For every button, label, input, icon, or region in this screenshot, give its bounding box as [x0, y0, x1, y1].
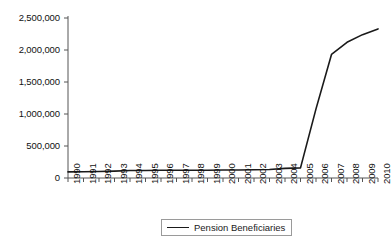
y-tick-label: 1,000,000 [0, 109, 60, 119]
y-tick-label: 2,500,000 [0, 13, 60, 23]
x-tick-label: 1990 [72, 163, 82, 184]
legend-line-swatch [167, 227, 189, 228]
x-tick-label: 2008 [351, 163, 361, 184]
x-tick-label: 1993 [119, 163, 129, 184]
axis-group [68, 16, 378, 178]
x-tick-label: 2001 [243, 163, 253, 184]
x-tick-label: 1997 [181, 163, 191, 184]
x-tick-label: 2006 [320, 163, 330, 184]
x-tick-label: 2002 [258, 163, 268, 184]
x-tick-label: 2009 [367, 163, 377, 184]
y-tick-label: 1,500,000 [0, 77, 60, 87]
x-tick-label: 1991 [88, 163, 98, 184]
x-tick-label: 2005 [305, 163, 315, 184]
x-tick-label: 1994 [134, 163, 144, 184]
x-tick-marks [68, 178, 378, 182]
chart-legend: Pension Beneficiaries [161, 219, 292, 236]
x-tick-label: 1999 [212, 163, 222, 184]
y-tick-marks [64, 18, 68, 178]
data-series-group [68, 29, 378, 172]
x-tick-label: 1998 [196, 163, 206, 184]
x-tick-label: 2007 [336, 163, 346, 184]
legend-label: Pension Beneficiaries [194, 222, 285, 233]
x-tick-label: 1996 [165, 163, 175, 184]
x-tick-label: 2010 [382, 163, 392, 184]
series-line [68, 29, 378, 172]
x-tick-label: 2000 [227, 163, 237, 184]
x-tick-label: 1992 [103, 163, 113, 184]
y-tick-label: 0 [0, 173, 60, 183]
y-tick-label: 2,000,000 [0, 45, 60, 55]
x-tick-label: 1995 [150, 163, 160, 184]
x-tick-label: 2003 [274, 163, 284, 184]
y-tick-label: 500,000 [0, 141, 60, 151]
x-tick-label: 2004 [289, 163, 299, 184]
